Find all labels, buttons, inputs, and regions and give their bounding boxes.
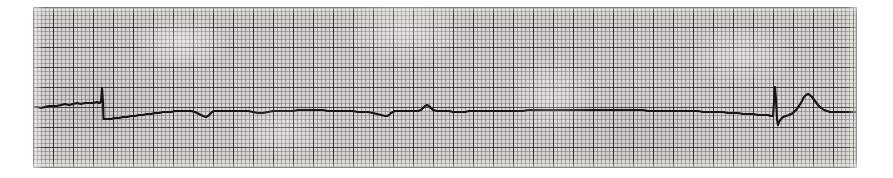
ecg-page [0,0,893,178]
grid-background [33,7,857,168]
ecg-strip [33,7,857,168]
ecg-chart [33,7,857,168]
grid-layer [33,7,857,168]
